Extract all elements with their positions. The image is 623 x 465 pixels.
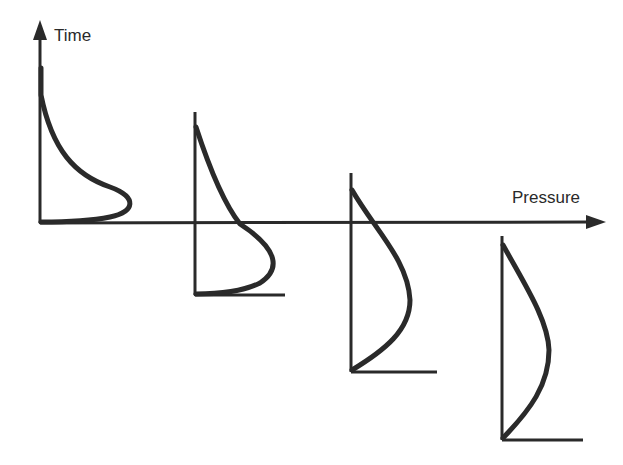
profile-2	[195, 112, 285, 295]
time-axis	[33, 20, 47, 223]
pressure-arrow-icon	[586, 215, 606, 229]
time-arrow-icon	[33, 20, 47, 40]
pressure-axis	[40, 215, 606, 229]
profile-1	[41, 68, 130, 222]
pressure-time-diagram: Time Pressure	[0, 0, 623, 465]
profile-4	[502, 236, 583, 440]
pressure-axis-label: Pressure	[512, 188, 580, 207]
profile-3	[351, 173, 437, 372]
time-axis-label: Time	[54, 26, 91, 45]
